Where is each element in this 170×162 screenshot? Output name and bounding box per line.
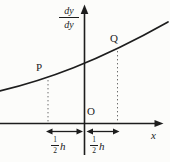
interval-arrow-right-head-left [87, 129, 94, 135]
diagram-geometry [0, 0, 170, 162]
origin-label: O [87, 106, 95, 117]
interval-arrow-right-head-right [113, 129, 120, 135]
interval-right-fraction: 1 2 [90, 136, 98, 154]
interval-left-fraction: 1 2 [51, 136, 59, 154]
y-axis-label-numerator: dy [59, 6, 79, 17]
interval-left-numerator: 1 [51, 136, 59, 145]
y-axis-arrowhead [81, 5, 89, 15]
point-q-label: Q [110, 33, 118, 44]
interval-right-denominator: 2 [90, 145, 98, 155]
interval-left-denominator: 2 [51, 145, 59, 155]
interval-label-right: 1 2 h [90, 136, 105, 154]
interval-arrow-left-head-right [77, 129, 84, 135]
interval-arrow-left-head-left [46, 129, 53, 135]
interval-left-unit: h [59, 136, 66, 152]
x-axis-arrowhead [155, 120, 164, 127]
interval-right-numerator: 1 [90, 136, 98, 145]
interval-right-unit: h [98, 136, 105, 152]
y-axis-label-denominator: dy [59, 17, 79, 30]
interval-label-left: 1 2 h [51, 136, 66, 154]
x-axis-label: x [151, 130, 156, 141]
point-p-label: P [36, 62, 42, 73]
derivative-diagram: dy dy P Q O x 1 2 h 1 2 h [0, 0, 170, 162]
y-axis-label: dy dy [59, 6, 79, 30]
